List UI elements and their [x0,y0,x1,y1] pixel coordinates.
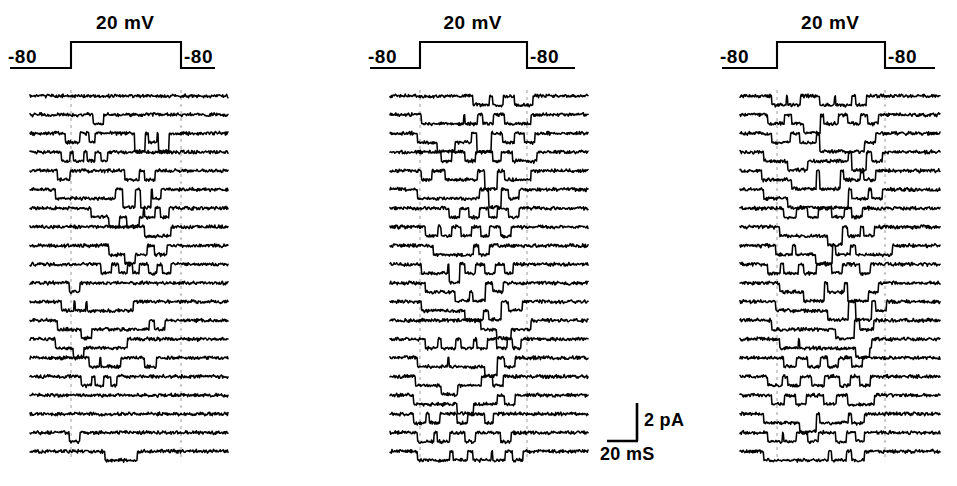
scale-bar-time-label: 20 mS [600,444,655,465]
scale-bar: 2 pA 20 mS [600,398,720,468]
current-sweep-trace [740,374,940,387]
current-sweep-trace [740,113,940,134]
current-traces-right [0,0,957,486]
single-channel-recording-figure: 20 mV -80 -80 20 mV -80 -80 20 mV -80 -8… [0,0,957,486]
scale-bar-path [607,403,638,441]
current-sweep-trace [740,132,940,154]
current-sweep-trace [740,449,940,462]
current-sweep-trace [740,225,940,246]
scale-bar-current-label: 2 pA [644,410,684,431]
current-sweep-trace [740,94,940,107]
current-sweep-trace [740,281,940,302]
current-sweep-trace [740,356,940,369]
current-sweep-trace [740,188,940,210]
current-sweep-trace [740,150,940,172]
current-sweep-trace [740,393,940,406]
current-sweep-trace [740,169,940,191]
current-sweep-trace [740,412,940,434]
current-sweep-trace [740,244,940,266]
current-sweep-trace [740,262,940,275]
current-sweep-trace [740,431,940,444]
